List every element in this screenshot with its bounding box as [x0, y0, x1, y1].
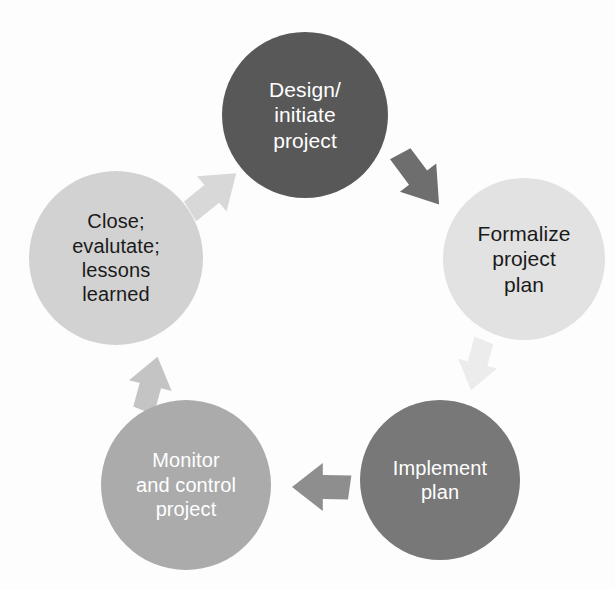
arrow-formalize-to-implement-icon: [452, 334, 504, 395]
node-circle-implement-plan[interactable]: [360, 400, 520, 560]
node-circle-design-initiate-project[interactable]: [222, 32, 388, 198]
node-circle-monitor-and-control-project[interactable]: [101, 400, 271, 570]
node-circle-close-evaluate-lessons-learned[interactable]: [29, 171, 203, 345]
node-circle-formalize-project-plan[interactable]: [443, 178, 605, 340]
arrow-implement-to-monitor-icon: [292, 463, 351, 511]
cycle-diagram-canvas: [0, 0, 615, 590]
project-lifecycle-diagram: Design/ initiate projectFormalize projec…: [0, 0, 615, 590]
arrow-design-to-formalize-icon: [381, 138, 458, 218]
